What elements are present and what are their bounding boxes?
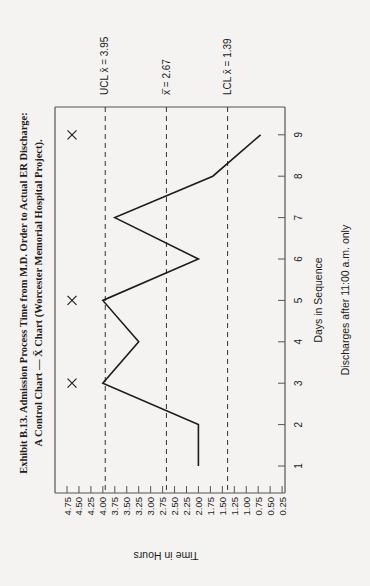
lcl-label: LCL x̄ = 1.39 xyxy=(222,38,233,95)
y-axis-label: Time in Hours xyxy=(134,550,199,562)
y-tick-label: 3.25 xyxy=(133,497,144,516)
x-tick-label: 6 xyxy=(293,256,304,262)
y-tick-label: 1.00 xyxy=(241,497,252,516)
x-axis-label: Days in Sequence xyxy=(312,257,324,342)
y-tick-label: 1.25 xyxy=(229,497,240,516)
ucl-label: UCL x̄ = 3.95 xyxy=(99,36,110,95)
chart-title-line1: Exhibit B.13. Admission Process Time fro… xyxy=(18,112,29,474)
y-tick-label: 1.50 xyxy=(217,497,228,516)
y-tick-label: 2.50 xyxy=(169,497,180,516)
x-tick-label: 8 xyxy=(293,173,304,179)
control-chart: Exhibit B.13. Admission Process Time fro… xyxy=(0,0,370,586)
y-tick-label: 2.00 xyxy=(193,497,204,516)
y-axis-ticks: 4.754.504.254.003.753.503.253.002.752.50… xyxy=(62,486,288,516)
control-limit-lines xyxy=(105,107,227,493)
y-tick-label: 3.75 xyxy=(109,497,120,516)
x-tick-label: 4 xyxy=(293,339,304,345)
x-tick-label: 5 xyxy=(293,297,304,303)
x-tick-label: 3 xyxy=(293,380,304,386)
y-tick-label: 4.75 xyxy=(62,497,73,516)
y-tick-label: 2.25 xyxy=(181,497,192,516)
y-tick-label: 0.50 xyxy=(265,497,276,516)
y-tick-label: 3.00 xyxy=(145,497,156,516)
y-tick-label: 3.50 xyxy=(121,497,132,516)
y-tick-label: 4.50 xyxy=(73,497,84,516)
y-tick-label: 1.75 xyxy=(205,497,216,516)
x-tick-label: 9 xyxy=(293,132,304,138)
y-tick-label: 4.00 xyxy=(97,497,108,516)
out-of-control-markers xyxy=(68,130,77,387)
plot-frame xyxy=(55,107,285,493)
x-marker-icon xyxy=(68,130,77,139)
y-tick-label: 0.25 xyxy=(277,497,288,516)
x-axis-note: Discharges after 11:00 a.m. only xyxy=(339,224,351,375)
y-tick-label: 0.75 xyxy=(253,497,264,516)
chart-title-line2: A Control Chart — X̄ Chart (Worcester Me… xyxy=(33,139,45,447)
y-tick-label: 2.75 xyxy=(157,497,168,516)
x-marker-icon xyxy=(68,379,77,388)
x-tick-label: 1 xyxy=(293,463,304,469)
mean-label: x̄̄ = 2.67 xyxy=(161,59,172,95)
x-tick-label: 7 xyxy=(293,214,304,220)
x-tick-label: 2 xyxy=(293,421,304,427)
data-series-line xyxy=(103,135,261,466)
y-tick-label: 4.25 xyxy=(85,497,96,516)
x-axis-ticks: 123456789 xyxy=(278,132,304,469)
x-marker-icon xyxy=(68,296,77,305)
